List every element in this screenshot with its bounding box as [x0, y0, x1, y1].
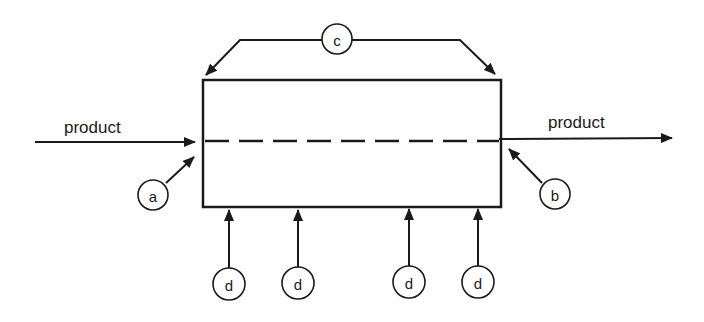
marker-d-2-label: d: [294, 276, 302, 293]
marker-d-4-label: d: [474, 275, 482, 292]
marker-d-2: d: [282, 210, 314, 299]
marker-d-3: d: [393, 209, 425, 298]
marker-d-3-label: d: [405, 275, 413, 292]
marker-a: a: [138, 157, 194, 210]
marker-d-1: d: [213, 210, 245, 300]
marker-b-arrow-icon: [509, 149, 542, 183]
process-vessel-box: [203, 80, 501, 207]
marker-c-label: c: [333, 32, 341, 49]
marker-b-label: b: [551, 187, 559, 204]
marker-b: b: [509, 149, 570, 209]
marker-c-right-arrow-icon: [352, 40, 495, 74]
outlet-product-label: product: [548, 113, 605, 132]
marker-d-1-label: d: [225, 277, 233, 294]
outlet-product-flow: product: [499, 113, 672, 139]
marker-a-label: a: [149, 188, 158, 205]
inlet-product-flow: product: [35, 118, 195, 142]
marker-c-left-arrow-icon: [206, 40, 322, 75]
marker-a-arrow-icon: [166, 157, 194, 183]
inlet-product-label: product: [64, 118, 121, 137]
process-diagram: product product a b c d d d: [0, 0, 704, 322]
outlet-arrow-icon: [499, 138, 672, 139]
marker-c: c: [206, 24, 495, 75]
marker-d-4: d: [462, 209, 494, 298]
